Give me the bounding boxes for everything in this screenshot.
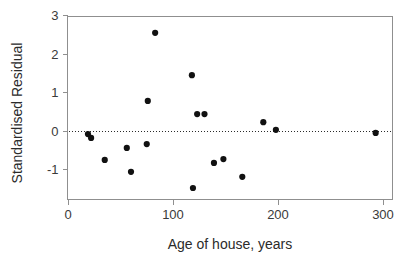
scatter-plot-figure: 0100200300 -10123 Age of house, years St… bbox=[0, 0, 411, 257]
data-point bbox=[189, 72, 195, 78]
y-tick-label: 2 bbox=[51, 47, 58, 62]
data-point bbox=[211, 160, 217, 166]
y-tick-label: 3 bbox=[51, 8, 58, 23]
x-tick-label: 100 bbox=[162, 207, 184, 222]
data-point bbox=[373, 130, 379, 136]
data-point bbox=[201, 111, 207, 117]
data-point bbox=[152, 30, 158, 36]
data-point bbox=[220, 156, 226, 162]
data-point bbox=[124, 145, 130, 151]
x-tick-label: 200 bbox=[267, 207, 289, 222]
x-tick-label: 300 bbox=[372, 207, 394, 222]
data-point bbox=[194, 111, 200, 117]
data-point bbox=[128, 169, 134, 175]
data-point bbox=[102, 157, 108, 163]
data-point bbox=[145, 98, 151, 104]
data-point bbox=[88, 135, 94, 141]
data-point bbox=[273, 127, 279, 133]
x-axis-title: Age of house, years bbox=[168, 236, 293, 252]
data-point bbox=[260, 119, 266, 125]
y-tick-label: -1 bbox=[47, 162, 59, 177]
data-point bbox=[144, 141, 150, 147]
plot-canvas: 0100200300 -10123 Age of house, years St… bbox=[0, 0, 411, 257]
y-axis-title: Standardised Residual bbox=[9, 43, 25, 184]
data-point bbox=[190, 185, 196, 191]
y-tick-label: 1 bbox=[51, 85, 58, 100]
figure-background bbox=[0, 0, 411, 257]
data-point bbox=[239, 174, 245, 180]
y-tick-label: 0 bbox=[51, 124, 58, 139]
x-tick-label: 0 bbox=[64, 207, 71, 222]
